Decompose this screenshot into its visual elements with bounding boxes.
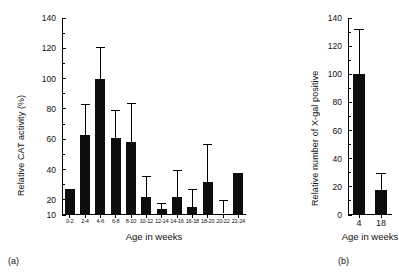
y-minor-tick-mark — [62, 154, 65, 155]
y-minor-tick-mark — [348, 116, 351, 117]
x-tick-label: 4-6 — [97, 219, 105, 225]
y-tick-label: 0 — [337, 211, 342, 220]
y-tick-mark — [62, 169, 66, 170]
x-tick-label: 4 — [356, 219, 361, 228]
y-minor-tick-mark — [62, 184, 65, 185]
y-tick-mark — [348, 186, 352, 187]
y-tick-mark — [348, 102, 352, 103]
y-minor-tick-mark — [348, 144, 351, 145]
y-tick-label: 40 — [333, 154, 342, 163]
y-tick-mark — [348, 46, 352, 47]
y-tick-label: 140 — [328, 14, 342, 23]
y-tick-label: 100 — [328, 70, 342, 79]
y-minor-tick-mark — [348, 172, 351, 173]
bar — [65, 189, 75, 215]
y-tick-mark — [348, 74, 352, 75]
bar — [111, 138, 121, 215]
y-tick-label: 60 — [47, 135, 56, 144]
y-tick-label: 20 — [47, 196, 56, 205]
error-bar-stem — [131, 103, 132, 142]
bar — [172, 197, 182, 215]
error-bar-stem — [359, 29, 360, 74]
error-bar-stem — [207, 144, 208, 182]
bar — [233, 173, 243, 215]
y-minor-tick-mark — [348, 200, 351, 201]
panel-b-plot-area: 020406080100120140418 — [348, 18, 392, 215]
error-bar-cap — [188, 189, 197, 190]
bar — [375, 190, 386, 215]
error-bar-stem — [85, 104, 86, 134]
error-bar-cap — [219, 200, 228, 201]
bar — [95, 79, 105, 215]
error-bar-stem — [192, 189, 193, 207]
y-tick-label: 120 — [42, 44, 56, 53]
y-minor-tick-mark — [348, 60, 351, 61]
y-tick-label: 100 — [42, 74, 56, 83]
y-tick-label: 120 — [328, 42, 342, 51]
y-tick-mark — [348, 18, 352, 19]
y-tick-mark — [62, 78, 66, 79]
panel-b: Relative number of X-gal positive 020406… — [262, 0, 399, 248]
y-minor-tick-mark — [62, 93, 65, 94]
error-bar-stem — [223, 200, 224, 214]
error-bar-cap — [142, 176, 151, 177]
error-bar-cap — [81, 104, 90, 105]
panel-a-plot-area: 10204060801001201400-22-44-66-88-1010-12… — [62, 18, 246, 215]
x-tick-label: 22-24 — [232, 219, 245, 225]
x-tick-label: 8-10 — [126, 219, 136, 225]
y-tick-mark — [348, 158, 352, 159]
x-tick-label: 0-2 — [66, 219, 74, 225]
y-tick-label: 140 — [42, 14, 56, 23]
y-tick-label: 10 — [47, 211, 56, 220]
panel-b-x-axis-label: Age in weeks — [340, 231, 399, 242]
bar — [353, 74, 364, 215]
error-bar-cap — [376, 173, 386, 174]
figure-root: Relative CAT activity (%) 10204060801001… — [0, 0, 399, 277]
error-bar-cap — [173, 170, 182, 171]
x-tick-label: 6-8 — [112, 219, 120, 225]
error-bar-stem — [146, 176, 147, 197]
x-tick-label: 20-22 — [216, 219, 229, 225]
error-bar-cap — [157, 203, 166, 204]
y-tick-mark — [62, 18, 66, 19]
y-minor-tick-mark — [62, 33, 65, 34]
x-tick-label: 14-16 — [170, 219, 183, 225]
bar — [203, 182, 213, 215]
panel-a-tag: (a) — [8, 256, 19, 266]
y-tick-mark — [348, 130, 352, 131]
y-tick-mark — [62, 48, 66, 49]
error-bar-cap — [96, 47, 105, 48]
y-tick-label: 80 — [333, 98, 342, 107]
y-tick-mark — [348, 215, 352, 216]
panel-b-y-axis-label: Relative number of X-gal positive — [310, 24, 320, 206]
panel-a-y-axis-label: Relative CAT activity (%) — [16, 46, 26, 196]
y-minor-tick-mark — [348, 32, 351, 33]
error-bar-stem — [100, 47, 101, 79]
y-tick-label: 60 — [333, 126, 342, 135]
error-bar-cap — [127, 103, 136, 104]
y-tick-label: 40 — [47, 165, 56, 174]
panel-a-x-axis-label: Age in weeks — [62, 231, 246, 242]
error-bar-stem — [177, 170, 178, 197]
y-tick-label: 20 — [333, 183, 342, 192]
y-tick-label: 80 — [47, 105, 56, 114]
x-tick-label: 18 — [376, 219, 386, 228]
error-bar-cap — [354, 29, 364, 30]
x-tick-label: 10-12 — [140, 219, 153, 225]
bar — [126, 142, 136, 215]
bar — [187, 207, 197, 215]
error-bar-cap — [203, 144, 212, 145]
error-bar-cap — [111, 110, 120, 111]
y-minor-tick-mark — [62, 124, 65, 125]
x-tick-label: 2-4 — [81, 219, 89, 225]
y-minor-tick-mark — [62, 63, 65, 64]
bar — [80, 135, 90, 215]
x-tick-label: 12-14 — [155, 219, 168, 225]
x-tick-label: 18-20 — [201, 219, 214, 225]
bar — [141, 197, 151, 215]
y-tick-mark — [62, 139, 66, 140]
y-minor-tick-mark — [348, 88, 351, 89]
error-bar-stem — [381, 173, 382, 190]
panel-b-tag: (b) — [338, 256, 349, 266]
x-tick-label: 16-18 — [186, 219, 199, 225]
